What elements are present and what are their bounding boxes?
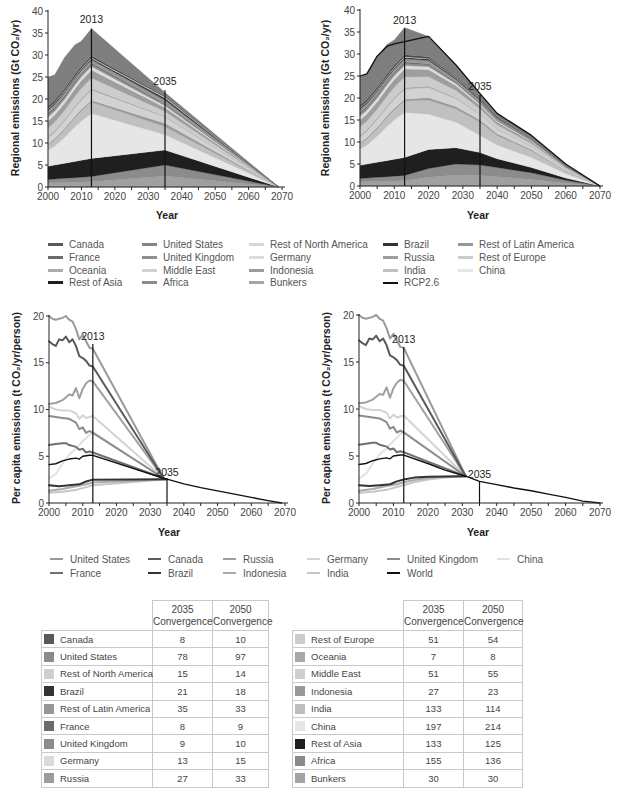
x-tick-label: 2000 bbox=[38, 507, 61, 518]
legend-swatch-icon bbox=[142, 269, 157, 272]
x-tick-label: 2010 bbox=[70, 191, 93, 202]
region-cell: Russia bbox=[42, 770, 153, 787]
header-sub: Convergence bbox=[464, 616, 522, 628]
y-tick-label: 15 bbox=[33, 357, 45, 368]
legend-item: Russia bbox=[223, 552, 307, 566]
value-2050: 33 bbox=[213, 700, 269, 717]
legend-item: Germany bbox=[307, 552, 387, 566]
legend-label: France bbox=[69, 252, 100, 263]
y-tick-label: 5 bbox=[348, 451, 354, 462]
marker-label: 2013 bbox=[80, 13, 104, 25]
legend-swatch-icon bbox=[48, 243, 63, 246]
x-tick-label: 2070 bbox=[271, 191, 294, 202]
y-tick-label: 20 bbox=[33, 311, 45, 322]
marker-label: 2035 bbox=[468, 468, 492, 480]
region-swatch-icon bbox=[295, 704, 305, 714]
y-tick-label: 15 bbox=[32, 116, 44, 127]
legend-swatch-icon bbox=[458, 243, 473, 246]
table-header-2035: 2035Convergence bbox=[153, 601, 213, 631]
legend-item: Rest of Latin America bbox=[458, 239, 598, 252]
region-name: Oceania bbox=[311, 651, 346, 662]
table-row: China197214 bbox=[293, 717, 523, 734]
region-cell: Canada bbox=[42, 631, 153, 648]
table-header-region bbox=[293, 601, 404, 631]
x-tick-label: 2070 bbox=[274, 507, 297, 518]
value-2050: 55 bbox=[464, 665, 523, 682]
x-tick-label: 2050 bbox=[206, 507, 229, 518]
legend-item: Germany bbox=[249, 251, 383, 264]
region-cell: United States bbox=[42, 648, 153, 665]
legend-label: Rest of Asia bbox=[69, 277, 122, 288]
region-name: Brazil bbox=[60, 686, 84, 697]
x-tick-label: 2030 bbox=[139, 507, 162, 518]
marker-label: 2013 bbox=[81, 330, 105, 342]
region-swatch-icon bbox=[44, 686, 54, 696]
x-tick-label: 2060 bbox=[237, 191, 260, 202]
y-tick-label: 10 bbox=[32, 138, 44, 149]
value-2035: 8 bbox=[153, 717, 213, 734]
region-name: United States bbox=[60, 651, 117, 662]
legend-label: Brazil bbox=[168, 568, 193, 579]
legend-item: Indonesia bbox=[223, 566, 307, 580]
header-year: 2035 bbox=[153, 604, 212, 616]
value-2035: 21 bbox=[153, 683, 213, 700]
legend-item: Rest of North America bbox=[249, 239, 383, 252]
value-2035: 51 bbox=[404, 631, 464, 648]
legend-item: Middle East bbox=[142, 264, 249, 277]
y-axis-title: Regional emissions (Gt CO₂/yr) bbox=[9, 20, 21, 176]
value-2050: 30 bbox=[464, 770, 523, 787]
legend-item: Rest of Europe bbox=[458, 251, 598, 264]
value-2035: 13 bbox=[153, 752, 213, 769]
table-header-2050: 2050Convergence bbox=[213, 601, 269, 631]
legend-label: Bunkers bbox=[270, 277, 307, 288]
region-cell: Oceania bbox=[293, 648, 404, 665]
region-swatch-icon bbox=[295, 634, 305, 644]
legend-label: India bbox=[404, 265, 426, 276]
y-tick-label: 5 bbox=[349, 159, 355, 170]
legend-item: Canada bbox=[48, 239, 142, 252]
region-swatch-icon bbox=[44, 669, 54, 679]
legend-label: United States bbox=[70, 554, 130, 565]
legend-swatch-icon bbox=[458, 269, 473, 272]
legend-label: China bbox=[479, 265, 505, 276]
legend-item: France bbox=[48, 251, 142, 264]
value-2050: 10 bbox=[213, 631, 269, 648]
region-cell: Brazil bbox=[42, 683, 153, 700]
region-name: Africa bbox=[311, 755, 335, 766]
value-2035: 155 bbox=[404, 752, 464, 769]
x-tick-label: 2040 bbox=[171, 191, 194, 202]
x-tick-label: 2020 bbox=[104, 191, 127, 202]
table-row: Rest of Europe5154 bbox=[293, 631, 523, 648]
table-row: France89 bbox=[42, 717, 269, 734]
y-tick-label: 10 bbox=[33, 404, 45, 415]
legend-item: Africa bbox=[142, 277, 249, 290]
legend-item: United States bbox=[142, 239, 249, 252]
x-tick-label: 2060 bbox=[240, 507, 263, 518]
legend-item: Brazil bbox=[148, 566, 223, 580]
y-tick-label: 5 bbox=[38, 451, 44, 462]
legend-item: Oceania bbox=[48, 264, 142, 277]
region-name: France bbox=[60, 721, 90, 732]
y-axis-title: Per capita emissions (t CO₂/yr/person) bbox=[10, 312, 22, 504]
region-cell: Middle East bbox=[293, 665, 404, 682]
value-2035: 133 bbox=[404, 735, 464, 752]
value-2050: 14 bbox=[213, 665, 269, 682]
legend-label: Middle East bbox=[163, 265, 215, 276]
region-name: Rest of North America bbox=[60, 668, 153, 679]
legend-line-icon bbox=[383, 282, 398, 283]
y-tick-label: 15 bbox=[343, 357, 355, 368]
legend-label: World bbox=[407, 568, 433, 579]
y-tick-label: 35 bbox=[344, 27, 356, 38]
table-row: Rest of North America1514 bbox=[42, 665, 269, 682]
table-row: Bunkers3030 bbox=[293, 770, 523, 787]
x-tick-label: 2030 bbox=[137, 191, 160, 202]
y-tick-label: 10 bbox=[344, 137, 356, 148]
marker-label: 2013 bbox=[392, 333, 416, 345]
line-world bbox=[49, 455, 282, 503]
x-tick-label: 2050 bbox=[520, 507, 543, 518]
chart-regional-emissions-2035-convergence: 0510152025303540200020102020203020402050… bbox=[0, 0, 310, 232]
legend-label: United Kingdom bbox=[407, 554, 478, 565]
value-2050: 214 bbox=[464, 717, 523, 734]
y-axis-title: Regional emissions (Gt CO₂/yr) bbox=[319, 20, 331, 176]
legend-per-capita: United States France Canada Brazil Russi… bbox=[50, 552, 597, 580]
